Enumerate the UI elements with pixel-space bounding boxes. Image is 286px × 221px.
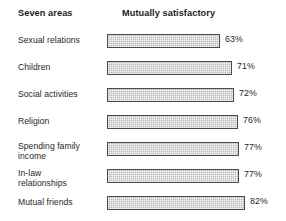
category-label: Religion (18, 116, 104, 126)
category-label: Spending familyincome (18, 141, 104, 161)
category-label-line2: income (18, 151, 104, 161)
bar (107, 34, 220, 48)
chart-row: Mutual friends82% (0, 195, 286, 215)
bar-track (107, 61, 232, 75)
chart-row: Religion76% (0, 114, 286, 134)
bar (107, 196, 245, 210)
bar (107, 115, 238, 129)
chart-row: Sexual relations63% (0, 33, 286, 53)
bar-value-label: 82% (250, 196, 268, 206)
category-label-line1: Sexual relations (18, 35, 80, 45)
bar-track (107, 142, 239, 156)
category-label: Social activities (18, 89, 104, 99)
category-label-line1: Mutual friends (18, 197, 73, 207)
chart-row: Children71% (0, 60, 286, 80)
category-label-line2: relationships (18, 178, 104, 188)
bar-value-label: 63% (225, 34, 243, 44)
bar-track (107, 196, 245, 210)
chart-rows: Sexual relations63%Children71%Social act… (0, 0, 286, 221)
category-label: Mutual friends (18, 197, 104, 207)
bar (107, 169, 239, 183)
bar-track (107, 34, 220, 48)
chart-row: Social activities72% (0, 87, 286, 107)
chart-row: Spending familyincome77% (0, 141, 286, 161)
bar (107, 88, 234, 102)
bar-value-label: 72% (239, 88, 257, 98)
bar-chart: Seven areas Mutually satisfactory Sexual… (0, 0, 286, 221)
bar (107, 142, 239, 156)
bar-value-label: 76% (243, 115, 261, 125)
category-label: Sexual relations (18, 35, 104, 45)
bar-value-label: 71% (237, 61, 255, 71)
chart-row: In-lawrelationships77% (0, 168, 286, 188)
category-label-line1: Spending family (18, 141, 80, 151)
bar-track (107, 169, 239, 183)
category-label-line1: Children (18, 62, 50, 72)
category-label: Children (18, 62, 104, 72)
bar-track (107, 115, 238, 129)
category-label-line1: In-law (18, 168, 41, 178)
category-label-line1: Social activities (18, 89, 78, 99)
bar-value-label: 77% (244, 142, 262, 152)
bar-track (107, 88, 234, 102)
category-label: In-lawrelationships (18, 168, 104, 188)
category-label-line1: Religion (18, 116, 49, 126)
bar (107, 61, 232, 75)
bar-value-label: 77% (244, 169, 262, 179)
